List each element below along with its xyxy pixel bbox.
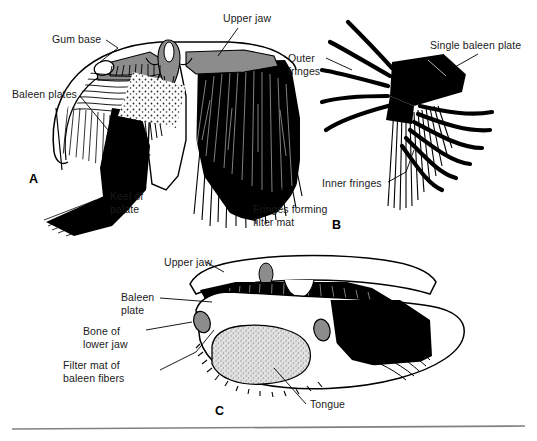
nasal-passage — [164, 42, 174, 62]
label-filter-mat-line2: baleen fibers — [63, 372, 124, 385]
label-bone-of-lower-jaw-line1: Bone of — [83, 325, 120, 338]
label-keel-of-palate-line1: Keel of — [110, 190, 143, 203]
label-outer-fringes-line2: fringes — [288, 65, 320, 78]
label-upper-jaw-c: Upper jaw — [164, 256, 212, 269]
panel-letter-c: C — [215, 404, 224, 418]
outer-fringes-left — [322, 22, 392, 130]
label-inner-fringes: Inner fringes — [322, 177, 382, 190]
leader-bone-of-lower-jaw — [146, 322, 192, 330]
fringe-mat-right — [190, 55, 304, 224]
label-outer-fringes-line1: Outer — [288, 52, 315, 65]
label-bone-of-lower-jaw-line2: lower jaw — [83, 338, 128, 351]
panel-letter-b: B — [332, 218, 341, 232]
panel-c-artwork — [146, 256, 464, 405]
label-baleen-plate-line1: Baleen — [121, 291, 154, 304]
footer-rule — [12, 426, 525, 429]
label-keel-of-palate-line2: palate — [110, 203, 139, 216]
panel-letter-a: A — [29, 172, 38, 186]
figure-baleen-anatomy: Gum base Upper jaw Baleen plates Keel of… — [0, 0, 537, 441]
tongue-shape — [212, 325, 310, 384]
label-tongue: Tongue — [310, 398, 345, 411]
single-baleen-plate-body — [390, 54, 466, 106]
label-filter-mat-line1: Filter mat of — [63, 359, 120, 372]
label-single-baleen-plate: Single baleen plate — [430, 39, 521, 52]
label-upper-jaw-a: Upper jaw — [223, 12, 271, 25]
label-baleen-plate-line2: plate — [121, 304, 144, 317]
upper-jaw-bone-node — [259, 263, 273, 285]
label-gum-base: Gum base — [52, 33, 101, 46]
leader-outer-fringes — [326, 58, 352, 70]
label-fringes-filter-mat-line1: Fringes forming — [253, 203, 327, 216]
label-fringes-filter-mat-line2: filter mat — [253, 216, 294, 229]
label-baleen-plates: Baleen plates — [12, 88, 77, 101]
